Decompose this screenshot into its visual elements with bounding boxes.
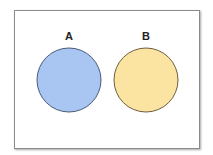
set-b-circle [114,48,178,112]
set-a-label: A [59,30,79,42]
set-a-circle [37,48,101,112]
set-b-label: B [136,30,156,42]
venn-diagram [0,0,213,155]
